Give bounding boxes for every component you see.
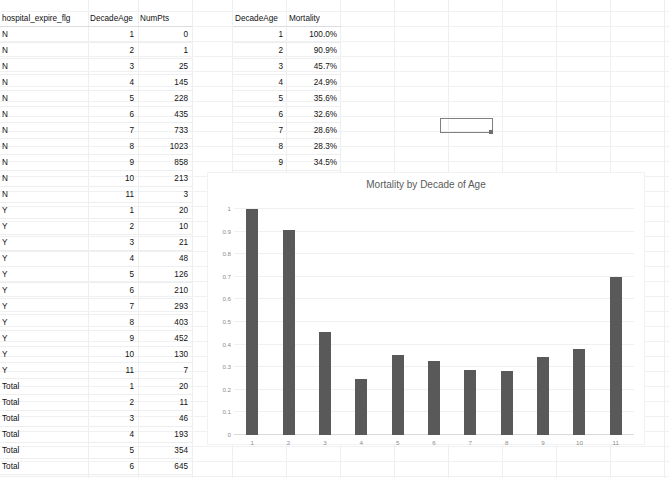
cell-decade-age[interactable]: 2 <box>88 395 138 411</box>
table-row[interactable]: Y10130 <box>0 347 192 363</box>
cell-mortality[interactable]: 28.3% <box>287 139 341 155</box>
cell-numpts[interactable]: 7 <box>138 363 192 379</box>
cell-mortality[interactable]: 32.6% <box>287 107 341 123</box>
cell-numpts[interactable]: 25 <box>138 59 192 75</box>
cell-hospital-expire-flg[interactable]: Y <box>0 235 88 251</box>
cell-decade-age[interactable]: 4 <box>88 427 138 443</box>
cell-hospital-expire-flg[interactable]: N <box>0 139 88 155</box>
cell-numpts[interactable]: 354 <box>138 443 192 459</box>
cell-hospital-expire-flg[interactable]: Y <box>0 347 88 363</box>
cell-decade-age[interactable]: 3 <box>233 59 287 75</box>
cell-hospital-expire-flg[interactable]: Y <box>0 203 88 219</box>
table-row[interactable]: N9858 <box>0 155 192 171</box>
cell-decade-age[interactable]: 3 <box>88 235 138 251</box>
cell-numpts[interactable]: 403 <box>138 315 192 331</box>
cell-hospital-expire-flg[interactable]: Y <box>0 267 88 283</box>
cell-decade-age[interactable]: 4 <box>88 251 138 267</box>
cell-decade-age[interactable]: 7 <box>233 123 287 139</box>
cell-decade-age[interactable]: 10 <box>88 347 138 363</box>
chart-bar[interactable] <box>355 379 367 435</box>
spreadsheet-canvas[interactable]: hospital_expire_flg DecadeAge NumPts N10… <box>0 0 669 478</box>
cell-numpts[interactable]: 452 <box>138 331 192 347</box>
chart-bar[interactable] <box>573 349 585 435</box>
table-row[interactable]: N10 <box>0 27 192 43</box>
cell-numpts[interactable]: 48 <box>138 251 192 267</box>
cell-mortality[interactable]: 24.9% <box>287 75 341 91</box>
cell-hospital-expire-flg[interactable]: N <box>0 123 88 139</box>
cell-hospital-expire-flg[interactable]: N <box>0 91 88 107</box>
chart-bar[interactable] <box>464 370 476 435</box>
table-row[interactable]: 535.6% <box>233 91 341 107</box>
table-row[interactable]: Y8403 <box>0 315 192 331</box>
table-row[interactable]: N81023 <box>0 139 192 155</box>
fill-handle[interactable] <box>489 130 493 134</box>
cell-hospital-expire-flg[interactable]: Y <box>0 315 88 331</box>
cell-hospital-expire-flg[interactable]: Y <box>0 331 88 347</box>
table-row[interactable]: 728.6% <box>233 123 341 139</box>
cell-decade-age[interactable]: 7 <box>88 123 138 139</box>
table-row[interactable]: N10213 <box>0 171 192 187</box>
cell-numpts[interactable]: 228 <box>138 91 192 107</box>
cell-numpts[interactable]: 858 <box>138 155 192 171</box>
column-header-numpts[interactable]: NumPts <box>138 11 192 27</box>
cell-numpts[interactable]: 1023 <box>138 139 192 155</box>
cell-decade-age[interactable]: 4 <box>88 75 138 91</box>
cell-hospital-expire-flg[interactable]: Y <box>0 363 88 379</box>
chart-bar[interactable] <box>246 209 258 435</box>
table-row[interactable]: 632.6% <box>233 107 341 123</box>
table-row[interactable]: 424.9% <box>233 75 341 91</box>
table-row[interactable]: 934.5% <box>233 155 341 171</box>
cell-numpts[interactable]: 20 <box>138 203 192 219</box>
chart-bar[interactable] <box>283 230 295 435</box>
cell-decade-age[interactable]: 6 <box>233 107 287 123</box>
cell-mortality[interactable]: 28.6% <box>287 123 341 139</box>
column-header-hospital-expire-flg[interactable]: hospital_expire_flg <box>0 11 88 27</box>
cell-decade-age[interactable]: 1 <box>88 203 138 219</box>
cell-hospital-expire-flg[interactable]: Total <box>0 475 88 478</box>
cell-numpts[interactable]: 213 <box>138 171 192 187</box>
chart-bar[interactable] <box>610 277 622 435</box>
cell-numpts[interactable]: 0 <box>138 27 192 43</box>
table-row[interactable]: Y117 <box>0 363 192 379</box>
cell-numpts[interactable]: 126 <box>138 267 192 283</box>
cell-hospital-expire-flg[interactable]: Total <box>0 459 88 475</box>
cell-decade-age[interactable]: 3 <box>88 59 138 75</box>
cell-decade-age[interactable]: 8 <box>88 315 138 331</box>
cell-decade-age[interactable]: 5 <box>88 91 138 107</box>
cell-hospital-expire-flg[interactable]: Y <box>0 299 88 315</box>
table-row[interactable]: 828.3% <box>233 139 341 155</box>
chart-bar[interactable] <box>319 332 331 435</box>
table-row[interactable]: Y9452 <box>0 331 192 347</box>
table-row[interactable]: Total71026 <box>0 475 192 478</box>
cell-numpts[interactable]: 645 <box>138 459 192 475</box>
chart-bar[interactable] <box>392 355 404 435</box>
cell-hospital-expire-flg[interactable]: N <box>0 59 88 75</box>
cell-decade-age[interactable]: 5 <box>88 267 138 283</box>
cell-numpts[interactable]: 293 <box>138 299 192 315</box>
cell-decade-age[interactable]: 11 <box>88 363 138 379</box>
cell-numpts[interactable]: 733 <box>138 123 192 139</box>
cell-hospital-expire-flg[interactable]: Y <box>0 219 88 235</box>
selected-cell[interactable] <box>440 118 493 133</box>
cell-decade-age[interactable]: 9 <box>88 331 138 347</box>
column-header-mortality[interactable]: Mortality <box>287 11 341 27</box>
cell-decade-age[interactable]: 6 <box>88 459 138 475</box>
column-header-decade-age[interactable]: DecadeAge <box>233 11 287 27</box>
cell-numpts[interactable]: 1026 <box>138 475 192 478</box>
cell-hospital-expire-flg[interactable]: N <box>0 107 88 123</box>
table-row[interactable]: Y7293 <box>0 299 192 315</box>
cell-hospital-expire-flg[interactable]: Total <box>0 411 88 427</box>
cell-decade-age[interactable]: 9 <box>233 155 287 171</box>
cell-hospital-expire-flg[interactable]: Total <box>0 379 88 395</box>
table-row[interactable]: 1100.0% <box>233 27 341 43</box>
cell-hospital-expire-flg[interactable]: Total <box>0 443 88 459</box>
cell-decade-age[interactable]: 10 <box>88 171 138 187</box>
cell-mortality[interactable]: 90.9% <box>287 43 341 59</box>
table-row[interactable]: Total6645 <box>0 459 192 475</box>
cell-decade-age[interactable]: 1 <box>88 379 138 395</box>
cell-decade-age[interactable]: 5 <box>233 91 287 107</box>
cell-numpts[interactable]: 1 <box>138 43 192 59</box>
cell-hospital-expire-flg[interactable]: Y <box>0 251 88 267</box>
cell-decade-age[interactable]: 2 <box>233 43 287 59</box>
cell-mortality[interactable]: 34.5% <box>287 155 341 171</box>
